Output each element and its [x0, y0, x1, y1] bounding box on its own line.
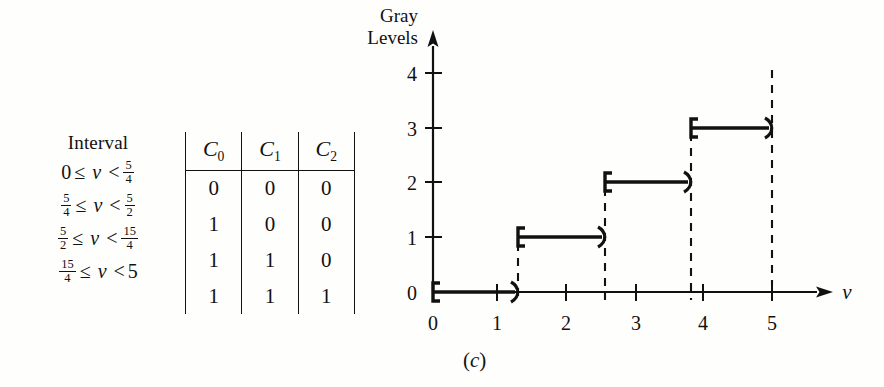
interval-row: 5 4 ≤ v < 5 2 [18, 189, 178, 222]
column-header-c0: C0 [186, 132, 242, 171]
threshold-guides [518, 70, 772, 300]
interval-variable: v [89, 194, 106, 217]
y-tick-label: 1 [407, 227, 417, 249]
step-level-0 [433, 282, 518, 302]
cell-c1: 0 [242, 171, 298, 207]
figure-container: Interval 0 ≤ v < 5 4 5 4 ≤ v < [0, 0, 884, 387]
fraction-denominator: 2 [58, 239, 68, 252]
interval-upper-fraction: 5 2 [125, 192, 135, 219]
cell-c2: 1 [298, 278, 354, 314]
x-axis-arrowhead [816, 287, 833, 298]
y-axis-arrowhead [428, 30, 439, 47]
code-table-grid: C0 C1 C2 0 0 0 1 0 0 [185, 132, 355, 314]
table-row: 1 0 0 [186, 207, 355, 243]
y-tick-label: 2 [407, 172, 417, 194]
caption-letter: c [470, 348, 479, 372]
cell-c0: 1 [186, 243, 242, 279]
interval-column-header: Interval [18, 132, 178, 156]
cell-c1: 1 [242, 278, 298, 314]
interval-rel-left: ≤ [69, 227, 86, 250]
interval-lower: 0 [61, 161, 71, 184]
interval-upper: 5 [128, 260, 138, 283]
cell-c0: 1 [186, 278, 242, 314]
y-tick-label: 4 [407, 63, 417, 85]
fraction-denominator: 4 [125, 239, 135, 252]
interval-column: Interval 0 ≤ v < 5 4 5 4 ≤ v < [18, 132, 178, 288]
y-tick-label: 0 [407, 282, 417, 304]
y-axis [428, 30, 439, 292]
interval-code-table: Interval 0 ≤ v < 5 4 5 4 ≤ v < [0, 132, 370, 317]
fraction-numerator: 15 [121, 225, 138, 239]
x-tick-label: 4 [698, 312, 708, 334]
interval-rel-right: < [111, 260, 128, 283]
interval-rel-right: < [106, 194, 123, 217]
chart-svg: 4 3 2 1 0 0 1 2 3 4 5 Gray Levels v [355, 0, 884, 387]
x-axis-title: v [842, 280, 852, 304]
interval-lower-fraction: 15 4 [59, 258, 76, 285]
fraction-numerator: 5 [123, 159, 133, 173]
x-tick-label: 1 [492, 312, 502, 334]
cell-c0: 1 [186, 207, 242, 243]
table-row: 1 1 1 [186, 278, 355, 314]
step-level-2 [605, 172, 691, 192]
column-header-c2: C2 [298, 132, 354, 171]
interval-rel-left: ≤ [72, 194, 89, 217]
fraction-denominator: 4 [61, 206, 71, 219]
interval-lower-fraction: 5 2 [58, 225, 68, 252]
cell-c2: 0 [298, 243, 354, 279]
x-tick-label: 5 [767, 312, 777, 334]
step-level-3 [691, 118, 772, 138]
interval-lower-fraction: 5 4 [61, 192, 71, 219]
fraction-denominator: 4 [62, 272, 72, 285]
interval-variable: v [94, 260, 111, 283]
interval-row: 15 4 ≤ v < 5 [18, 255, 178, 288]
cell-c2: 0 [298, 207, 354, 243]
y-axis-tick-labels: 4 3 2 1 0 [407, 63, 417, 304]
figure-caption: (c) [463, 348, 486, 373]
table-row: 0 0 0 [186, 171, 355, 207]
interval-upper-fraction: 15 4 [121, 225, 138, 252]
interval-variable: v [86, 227, 103, 250]
interval-variable: v [88, 161, 105, 184]
y-axis-title-line1: Gray [380, 5, 418, 26]
code-table: C0 C1 C2 0 0 0 1 0 0 [185, 132, 355, 314]
fraction-numerator: 5 [125, 192, 135, 206]
caption-close-paren: ) [479, 348, 486, 372]
step-level-1 [518, 227, 605, 247]
staircase-chart: 4 3 2 1 0 0 1 2 3 4 5 Gray Levels v (c) [355, 0, 884, 387]
column-header-c1: C1 [242, 132, 298, 171]
fraction-denominator: 4 [123, 173, 133, 186]
x-axis-tick-labels: 0 1 2 3 4 5 [428, 312, 777, 334]
fraction-numerator: 5 [58, 225, 68, 239]
cell-c1: 1 [242, 243, 298, 279]
cell-c1: 0 [242, 207, 298, 243]
code-table-header-row: C0 C1 C2 [186, 132, 355, 171]
interval-rel-left: ≤ [77, 260, 94, 283]
interval-row: 5 2 ≤ v < 15 4 [18, 222, 178, 255]
y-tick-label: 3 [407, 118, 417, 140]
cell-c0: 0 [186, 171, 242, 207]
interval-row: 0 ≤ v < 5 4 [18, 156, 178, 189]
fraction-denominator: 2 [125, 206, 135, 219]
x-tick-label: 0 [428, 312, 438, 334]
y-axis-title-line2: Levels [367, 27, 418, 48]
interval-upper-fraction: 5 4 [123, 159, 133, 186]
x-tick-label: 3 [631, 312, 641, 334]
fraction-numerator: 15 [59, 258, 76, 272]
interval-rel-right: < [105, 161, 122, 184]
interval-rel-left: ≤ [71, 161, 88, 184]
fraction-numerator: 5 [61, 192, 71, 206]
interval-rel-right: < [103, 227, 120, 250]
table-row: 1 1 0 [186, 243, 355, 279]
x-tick-label: 2 [561, 312, 571, 334]
cell-c2: 0 [298, 171, 354, 207]
caption-open-paren: ( [463, 348, 470, 372]
